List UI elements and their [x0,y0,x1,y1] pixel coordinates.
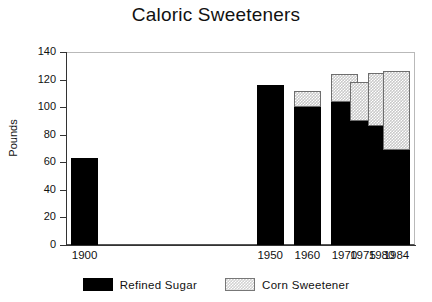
legend-item-refined-sugar: Refined Sugar [83,278,197,291]
bar-1984 [383,71,410,245]
y-axis-tick-label: 60 [16,155,56,167]
legend-label-corn-sweetener: Corn Sweetener [262,279,349,291]
x-axis-tick-label: 1984 [373,249,419,261]
bar-segment-refined-sugar [294,107,321,245]
y-axis-tick-label: 120 [16,73,56,85]
bar-1950 [257,85,284,245]
bar-series-layer [66,52,415,245]
y-axis-tick-label: 40 [16,183,56,195]
y-axis-tick-mark [60,245,66,246]
y-axis-tick-label: 100 [16,100,56,112]
bar-segment-refined-sugar [383,150,410,245]
bar-segment-refined-sugar [71,158,98,245]
y-axis-tick-label: 80 [16,128,56,140]
x-axis-tick-label: 1900 [62,249,108,261]
chart-container: Caloric Sweeteners Pounds 02040608010012… [0,0,432,302]
y-axis-tick-label: 140 [16,45,56,57]
y-axis-tick-label: 20 [16,210,56,222]
legend-label-refined-sugar: Refined Sugar [120,279,197,291]
x-axis-line [66,245,416,246]
bar-segment-refined-sugar [257,85,284,245]
chart-legend: Refined Sugar Corn Sweetener [0,278,432,291]
bar-1960 [294,91,321,245]
bar-segment-corn-sweetener [383,71,410,150]
legend-swatch-corn-sweetener [225,278,255,291]
chart-title: Caloric Sweeteners [0,4,432,26]
legend-swatch-refined-sugar [83,278,113,291]
bar-1900 [71,158,98,245]
y-axis-tick-label: 0 [16,238,56,250]
legend-item-corn-sweetener: Corn Sweetener [225,278,349,291]
bar-segment-corn-sweetener [294,91,321,108]
